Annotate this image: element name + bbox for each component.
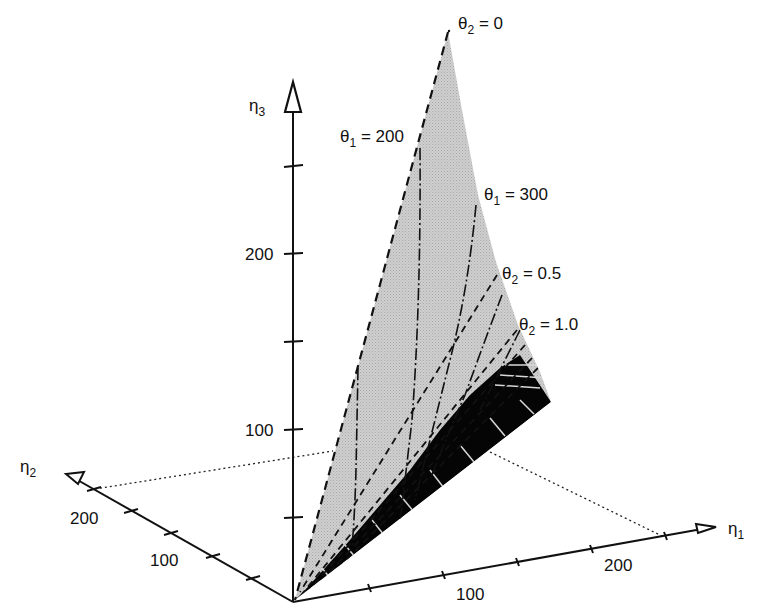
eta2-tick-200: 200 [70, 509, 98, 528]
eta3-axis [284, 82, 303, 602]
eta3-tick-200: 200 [245, 245, 273, 264]
eta3-tick-100: 100 [245, 421, 273, 440]
annotation-theta1-200: θ1 = 200 [340, 127, 404, 150]
annotation-theta2-0.5: θ2 = 0.5 [502, 264, 561, 287]
annotation-theta1-300: θ1 = 300 [484, 185, 548, 208]
parametric-surface [295, 32, 551, 600]
annotation-theta2-1.0: θ2 = 1.0 [519, 315, 578, 338]
surface-plot-figure: η3 η2 η1 200 100 200 100 100 200 θ2 = 0 … [0, 0, 765, 616]
eta2-tick-100: 100 [150, 551, 178, 570]
eta2-axis [66, 472, 293, 602]
eta1-tick-200: 200 [604, 556, 632, 575]
eta2-label: η2 [20, 457, 36, 480]
annotation-theta2-0: θ2 = 0 [458, 14, 503, 37]
eta1-tick-100: 100 [456, 585, 484, 604]
eta3-label: η3 [249, 96, 265, 119]
eta1-label: η1 [728, 519, 744, 542]
